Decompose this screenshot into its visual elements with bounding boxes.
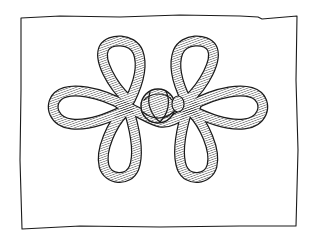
frog-closure-drawing	[0, 0, 316, 236]
knot	[53, 41, 263, 178]
illustration	[0, 0, 316, 236]
